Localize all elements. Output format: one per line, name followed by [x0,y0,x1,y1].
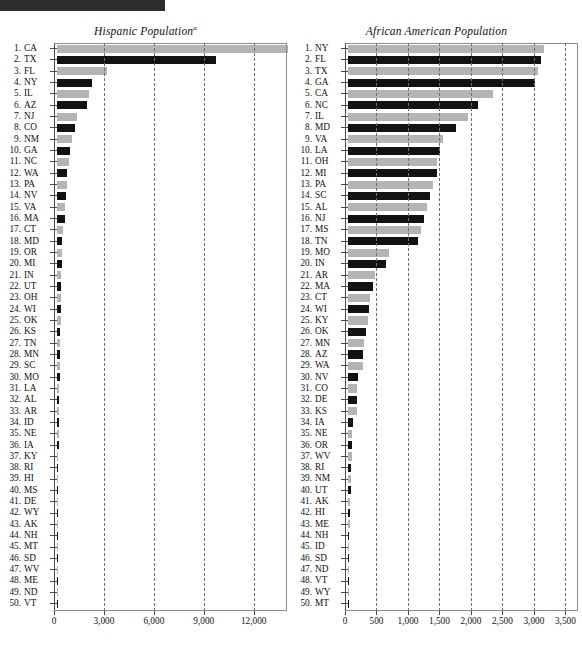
y-axis-tick [50,93,57,94]
gridline [254,43,255,611]
row-state-abbr: AR [315,271,341,280]
row-state-abbr: FL [315,55,341,64]
x-axis-label: 2,000 [460,616,481,626]
row-state-abbr: NC [24,157,50,166]
row-rank: 12. [291,169,315,178]
y-axis-tick [341,331,348,332]
gridline [376,43,377,611]
bar-cell [57,587,291,598]
bar-cell [348,270,582,281]
row-state-abbr: IL [24,89,50,98]
bar [348,509,350,517]
y-axis-tick [50,411,57,412]
bar [348,441,352,449]
row-rank: 36. [0,441,24,450]
row-state-abbr: NJ [24,112,50,121]
bar-cell [57,43,291,54]
bar [57,282,61,290]
row-state-abbr: HI [315,508,341,517]
row-state-abbr: IA [24,441,50,450]
row-state-abbr: RI [24,463,50,472]
bar [57,192,66,200]
row-rank: 16. [291,214,315,223]
row-state-abbr: VA [24,203,50,212]
chart-row: 27.TN [0,338,291,349]
chart-row: 34.IA [291,417,582,428]
bar [348,316,368,324]
bar [57,588,58,596]
bar [57,486,58,494]
row-rank: 2. [291,55,315,64]
row-rank: 45. [0,542,24,551]
bar-cell [57,168,291,179]
bar [348,328,366,336]
y-axis-tick [50,320,57,321]
chart-row: 32.DE [291,394,582,405]
y-axis-tick [341,411,348,412]
row-state-abbr: PA [315,180,341,189]
row-rank: 15. [0,203,24,212]
bar [57,441,59,449]
row-rank: 6. [291,101,315,110]
chart-row: 4.GA [291,77,582,88]
y-axis-tick [341,82,348,83]
bar-cell [348,134,582,145]
chart-row: 36.IA [0,439,291,450]
row-state-abbr: NE [24,429,50,438]
y-axis-tick [50,297,57,298]
bar [57,430,59,438]
y-axis-tick [341,48,348,49]
y-axis-tick [50,399,57,400]
row-rank: 32. [0,395,24,404]
row-state-abbr: DE [315,395,341,404]
row-state-abbr: NY [315,44,341,53]
chart-row: 3.FL [0,66,291,77]
row-rank: 8. [0,123,24,132]
y-axis-tick [341,377,348,378]
bar-cell [348,338,582,349]
bar-cell [57,439,291,450]
y-axis-tick [341,603,348,604]
row-rank: 1. [0,44,24,53]
row-state-abbr: ND [24,588,50,597]
y-axis-tick [50,467,57,468]
row-state-abbr: AL [24,395,50,404]
bar-cell [57,111,291,122]
chart-row: 39.NM [291,473,582,484]
row-rank: 24. [291,305,315,314]
row-state-abbr: SD [315,554,341,563]
row-state-abbr: OH [315,157,341,166]
row-state-abbr: MI [24,259,50,268]
x-axis-label: 3,000 [93,616,114,626]
x-axis-label: 3,500 [555,616,576,626]
row-rank: 47. [0,565,24,574]
bar-cell [57,224,291,235]
charts-container: Hispanic Populationa 1.CA2.TX3.FL4.NY5.I… [0,14,582,651]
row-rank: 48. [0,576,24,585]
row-rank: 21. [291,271,315,280]
bar [348,101,478,109]
chart-row: 28.MN [0,349,291,360]
bar-cell [348,439,582,450]
row-rank: 28. [0,350,24,359]
bar-cell [348,202,582,213]
chart-row: 27.MN [291,338,582,349]
row-rank: 34. [0,418,24,427]
chart-row: 10.LA [291,145,582,156]
chart-row: 7.IL [291,111,582,122]
bar-cell [57,88,291,99]
bar-cell [57,315,291,326]
row-state-abbr: TN [24,339,50,348]
row-state-abbr: CT [24,225,50,234]
bar [348,339,364,347]
bar-cell [348,394,582,405]
row-rank: 5. [291,89,315,98]
bar [57,566,58,574]
row-state-abbr: DE [24,497,50,506]
bar [57,90,89,98]
chart-row: 42.HI [291,507,582,518]
bar-cell [348,224,582,235]
row-rank: 9. [291,135,315,144]
chart-row: 17.CT [0,224,291,235]
row-state-abbr: FL [24,67,50,76]
